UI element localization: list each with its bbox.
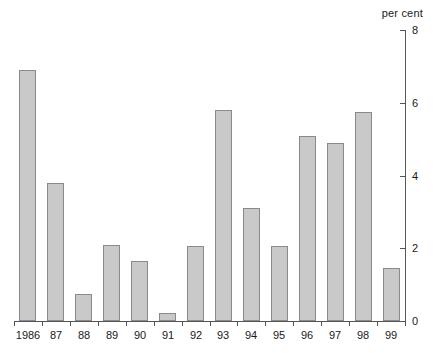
bar xyxy=(131,261,148,321)
bar xyxy=(299,136,316,322)
x-axis-tick-label: 90 xyxy=(134,330,146,341)
x-axis-tick xyxy=(377,322,378,326)
y-axis-tick-label: 4 xyxy=(412,171,418,182)
x-axis-tick xyxy=(265,322,266,326)
x-axis-tick xyxy=(349,322,350,326)
bar xyxy=(19,70,36,321)
y-axis-tick-label: 2 xyxy=(412,243,418,254)
x-axis-tick xyxy=(154,322,155,326)
x-axis-tick-label: 89 xyxy=(106,330,118,341)
x-axis-tick xyxy=(182,322,183,326)
x-axis-tick xyxy=(70,322,71,326)
bar xyxy=(355,112,372,321)
x-axis-tick-label: 91 xyxy=(162,330,174,341)
x-axis-tick-label: 98 xyxy=(357,330,369,341)
bar xyxy=(271,246,288,321)
x-axis-tick-label: 94 xyxy=(245,330,257,341)
x-axis-tick-label: 95 xyxy=(273,330,285,341)
x-axis-tick xyxy=(405,322,406,326)
y-axis-tick xyxy=(400,103,405,104)
bar xyxy=(187,246,204,321)
x-axis-tick-label: 87 xyxy=(50,330,62,341)
y-axis-tick-label: 8 xyxy=(412,25,418,36)
bar xyxy=(215,110,232,321)
bar-chart: per cent 02468 1986878889909192939495969… xyxy=(0,0,439,353)
x-axis-tick-label: 92 xyxy=(190,330,202,341)
x-axis-tick-label: 1986 xyxy=(16,330,40,341)
y-axis-tick-label: 0 xyxy=(412,316,418,327)
x-axis-tick xyxy=(126,322,127,326)
y-axis-unit-label: per cent xyxy=(382,7,423,19)
bar xyxy=(47,183,64,321)
x-axis-tick xyxy=(293,322,294,326)
plot-area xyxy=(14,30,405,321)
x-axis-tick-label: 97 xyxy=(329,330,341,341)
y-axis-tick xyxy=(400,248,405,249)
bar xyxy=(103,245,120,321)
x-axis-tick xyxy=(42,322,43,326)
x-axis-tick xyxy=(321,322,322,326)
bar xyxy=(159,313,176,321)
x-axis-tick-label: 96 xyxy=(301,330,313,341)
y-axis-tick-label: 6 xyxy=(412,98,418,109)
x-axis-tick xyxy=(14,322,15,326)
x-axis-tick-label: 88 xyxy=(78,330,90,341)
bar xyxy=(75,294,92,321)
bar xyxy=(243,208,260,321)
x-axis-tick-label: 93 xyxy=(217,330,229,341)
x-axis-tick xyxy=(237,322,238,326)
bar xyxy=(383,268,400,321)
x-axis-tick xyxy=(210,322,211,326)
y-axis-line xyxy=(405,30,406,322)
x-axis-tick xyxy=(98,322,99,326)
y-axis-tick xyxy=(400,176,405,177)
bar xyxy=(327,143,344,321)
x-axis-tick-label: 99 xyxy=(385,330,397,341)
y-axis-tick xyxy=(400,30,405,31)
